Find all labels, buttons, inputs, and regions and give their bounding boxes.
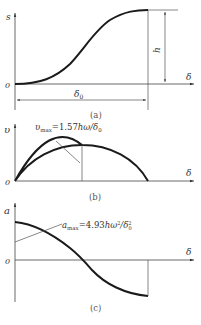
panel-b-velocity: υ 0 δ υmax=1.57hω/δ0 (b) (4, 122, 194, 202)
delta-axis-label-c: δ (186, 247, 191, 257)
panel-a-displacement: s 0 δ h δ0 (a) (5, 10, 194, 120)
caption-b: (b) (89, 192, 101, 202)
caption-c: (c) (90, 303, 101, 313)
caption-a: (a) (90, 110, 102, 120)
velocity-curve (15, 137, 148, 181)
h-label: h (152, 47, 162, 53)
amax-leader-line (15, 224, 62, 242)
origin-label-c: 0 (5, 257, 10, 266)
origin-label-a: 0 (5, 81, 10, 90)
amax-annotation: amax=4.93hω2/δ20 (62, 220, 132, 231)
cam-motion-diagram: s 0 δ h δ0 (a) υ 0 δ υmax=1.57hω/δ0 (b) … (0, 0, 201, 325)
delta0-label: δ0 (74, 89, 83, 100)
vmax-annotation: υmax=1.57hω/δ0 (35, 122, 102, 133)
acceleration-curve (15, 222, 148, 296)
displacement-curve (15, 10, 148, 84)
v-axis-label: υ (4, 124, 10, 135)
s-axis-label: s (6, 12, 11, 22)
a-axis-label: a (4, 205, 10, 216)
delta-axis-label-a: δ (186, 72, 191, 82)
delta-axis-label-b: δ (186, 168, 191, 178)
origin-label-b: 0 (5, 178, 10, 187)
panel-c-acceleration: a 0 δ amax=4.93hω2/δ20 (c) (4, 203, 194, 313)
